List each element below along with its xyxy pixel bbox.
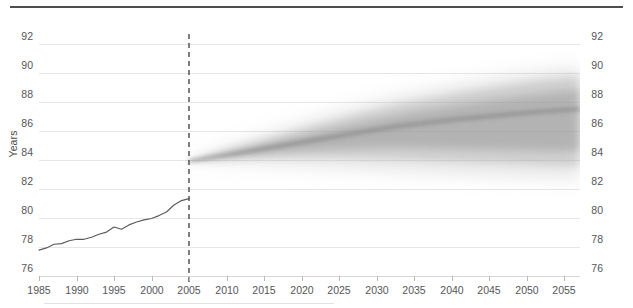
x-tick-11: 2040 (440, 284, 464, 296)
fan-chart: Years (0, 0, 633, 308)
y-tick-left-5: 86 (21, 117, 33, 129)
x-tick-9: 2030 (365, 284, 389, 296)
x-tick-3: 2000 (140, 284, 164, 296)
y-tick-left-6: 88 (21, 88, 33, 100)
x-tick-7: 2020 (290, 284, 314, 296)
y-axis-labels-right: 92 90 88 86 84 82 80 78 76 (591, 30, 603, 274)
y-tick-left-4: 84 (21, 146, 33, 158)
x-tick-5: 2010 (215, 284, 239, 296)
y-tick-left-1: 78 (21, 233, 33, 245)
y-tick-right-7: 90 (591, 59, 603, 71)
y-tick-right-5: 86 (591, 117, 603, 129)
x-tick-13: 2050 (515, 284, 539, 296)
x-axis-tickmarks (39, 276, 564, 281)
y-tick-right-6: 88 (591, 88, 603, 100)
y-tick-left-7: 90 (21, 59, 33, 71)
predictive-density-fan (189, 67, 580, 179)
x-tick-12: 2045 (477, 284, 501, 296)
x-tick-14: 2055 (552, 284, 576, 296)
y-axis-labels-left: 92 90 88 86 84 82 80 78 76 (21, 30, 33, 274)
bottom-divider-rule (44, 303, 334, 304)
y-tick-left-8: 92 (21, 30, 33, 42)
x-tick-6: 2015 (252, 284, 276, 296)
y-tick-right-8: 92 (591, 30, 603, 42)
y-tick-left-2: 80 (21, 204, 33, 216)
x-tick-10: 2035 (402, 284, 426, 296)
y-tick-right-3: 82 (591, 175, 603, 187)
x-tick-0: 1985 (27, 284, 51, 296)
y-tick-right-1: 78 (591, 233, 603, 245)
x-tick-8: 2025 (327, 284, 351, 296)
x-tick-1: 1990 (65, 284, 89, 296)
x-tick-4: 2005 (177, 284, 201, 296)
x-tick-2: 1995 (102, 284, 126, 296)
x-axis-labels: 1985 1990 1995 2000 2005 2010 2015 2020 … (27, 284, 576, 296)
y-tick-right-0: 76 (591, 262, 603, 274)
y-tick-right-4: 84 (591, 146, 603, 158)
y-tick-right-2: 80 (591, 204, 603, 216)
chart-canvas: 92 90 88 86 84 82 80 78 76 92 90 88 86 8… (0, 0, 633, 308)
y-tick-left-0: 76 (21, 262, 33, 274)
historical-life-expectancy-line (39, 199, 189, 251)
y-tick-left-3: 82 (21, 175, 33, 187)
